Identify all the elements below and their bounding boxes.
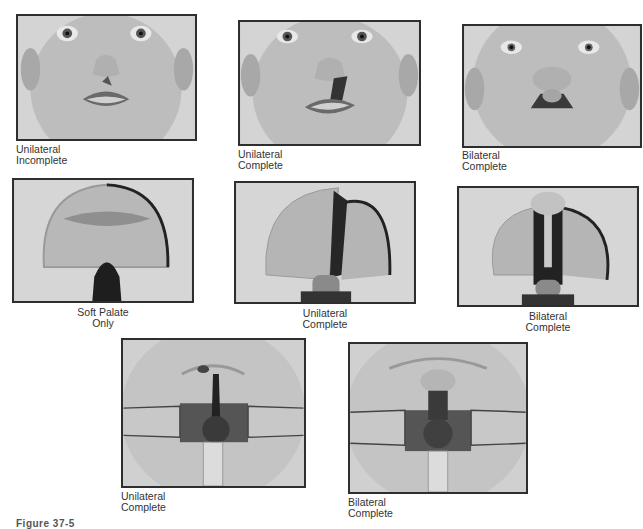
caption-oral-unilateral-complete: Unilateral Complete [121,491,166,513]
caption-palate-soft-palate-only: Soft Palate Only [12,307,194,329]
illustration-oral-bilateral-complete [350,344,526,492]
panel-palate-bilateral-complete [457,186,639,307]
caption-face-unilateral-incomplete: Unilateral Incomplete [16,144,67,166]
illustration-face-bilateral-complete [464,26,640,146]
caption-face-bilateral-complete: Bilateral Complete [462,150,507,172]
panel-face-unilateral-incomplete [16,14,197,141]
panel-face-unilateral-complete [238,20,421,146]
caption-palate-bilateral-complete: Bilateral Complete [457,311,639,333]
panel-oral-unilateral-complete [121,338,306,488]
illustration-oral-unilateral-complete [123,340,304,486]
illustration-palate-unilateral-complete [236,183,414,302]
illustration-palate-soft-palate-only [14,180,192,301]
caption-face-unilateral-complete: Unilateral Complete [238,149,283,171]
illustration-face-unilateral-incomplete [18,16,195,139]
figure-label: Figure 37-5 [16,518,75,529]
caption-oral-bilateral-complete: Bilateral Complete [348,497,393,519]
panel-palate-soft-palate-only [12,178,194,303]
illustration-palate-bilateral-complete [459,188,637,305]
illustration-face-unilateral-complete [240,22,419,144]
panel-oral-bilateral-complete [348,342,528,494]
panel-face-bilateral-complete [462,24,642,148]
panel-palate-unilateral-complete [234,181,416,304]
caption-palate-unilateral-complete: Unilateral Complete [234,308,416,330]
